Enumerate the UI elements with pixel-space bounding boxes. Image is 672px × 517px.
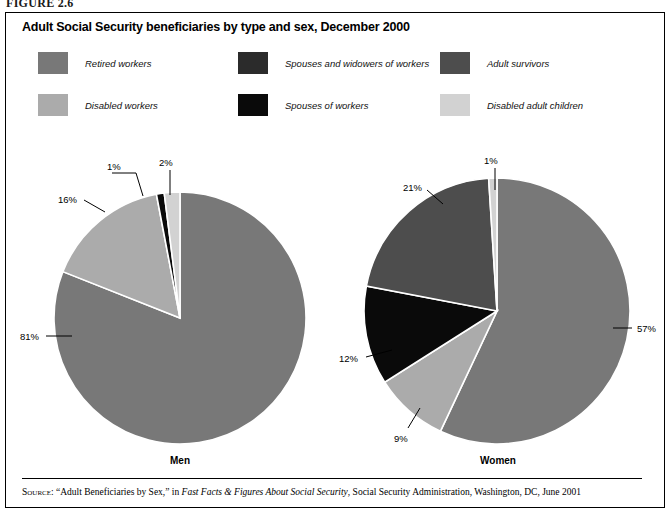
legend-label: Spouses of workers xyxy=(285,100,368,111)
legend-swatch xyxy=(440,94,470,116)
legend-label: Adult survivors xyxy=(487,58,549,69)
source-post-italic: , Social Security Administration, Washin… xyxy=(348,487,581,497)
legend-label: Retired workers xyxy=(85,58,152,69)
pie-caption-women: Women xyxy=(458,455,538,466)
legend-swatch xyxy=(38,94,68,116)
source-kicker: Source: xyxy=(22,487,54,497)
legend-item: Retired workers xyxy=(38,52,152,74)
legend-swatch xyxy=(440,52,470,74)
legend-swatch xyxy=(238,52,268,74)
pie-slice-label: 21% xyxy=(403,182,422,193)
pie-slice-label: 81% xyxy=(20,331,39,342)
pie-caption-men: Men xyxy=(140,455,220,466)
source-pre-italic: “Adult Beneficiaries by Sex,” in xyxy=(54,487,182,497)
legend-item: Spouses and widowers of workers xyxy=(238,52,429,74)
legend-label: Disabled workers xyxy=(85,100,158,111)
pie-slice-label: 2% xyxy=(159,157,173,168)
pie-slice-label: 12% xyxy=(339,353,358,364)
legend-item: Disabled adult children xyxy=(440,94,583,116)
source-note: Source: “Adult Beneficiaries by Sex,” in… xyxy=(22,486,648,499)
source-publication-title: Fast Facts & Figures About Social Securi… xyxy=(182,487,348,497)
pie-slice-label: 57% xyxy=(637,323,656,334)
legend-label: Spouses and widowers of workers xyxy=(285,58,429,69)
pie-slice-label: 1% xyxy=(484,155,498,166)
legend-item: Spouses of workers xyxy=(238,94,368,116)
figure-number: FIGURE 2.6 xyxy=(6,0,74,11)
legend-swatch xyxy=(38,52,68,74)
source-divider xyxy=(22,478,642,479)
pie-slice-label: 16% xyxy=(58,194,77,205)
pie-slice-label: 1% xyxy=(107,161,121,172)
chart-legend: Retired workersDisabled workersSpouses a… xyxy=(38,52,648,118)
legend-item: Adult survivors xyxy=(440,52,549,74)
legend-item: Disabled workers xyxy=(38,94,158,116)
legend-swatch xyxy=(238,94,268,116)
pie-slice-label: 9% xyxy=(394,433,408,444)
legend-label: Disabled adult children xyxy=(487,100,583,111)
page-title: Adult Social Security beneficiaries by t… xyxy=(22,20,410,34)
